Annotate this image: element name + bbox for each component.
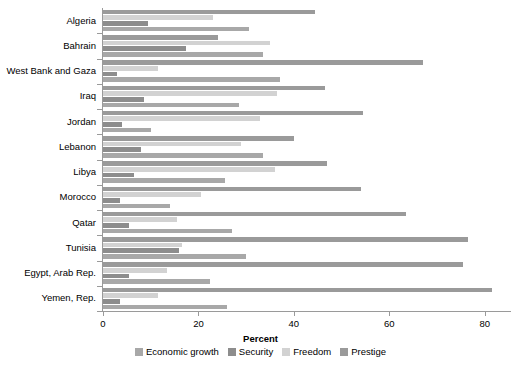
x-axis-tick-label: 80 xyxy=(465,318,505,329)
y-axis-category-label: Morocco xyxy=(0,191,96,202)
bar-economic-growth-qatar xyxy=(103,229,232,234)
legend-swatch-icon xyxy=(340,348,348,356)
bar-freedom-iraq xyxy=(103,91,277,96)
y-axis-tick xyxy=(97,185,102,186)
y-axis-tick xyxy=(97,261,102,262)
y-axis-category-label: Qatar xyxy=(0,217,96,228)
bar-economic-growth-bahrain xyxy=(103,52,263,57)
bar-prestige-libya xyxy=(103,161,327,166)
bar-prestige-tunisia xyxy=(103,237,468,242)
bar-economic-growth-yemen-rep- xyxy=(103,305,227,310)
y-axis-tick xyxy=(97,33,102,34)
y-axis-category-label: Yemen, Rep. xyxy=(0,292,96,303)
legend-item-economic-growth[interactable]: Economic growth xyxy=(135,346,219,357)
bar-security-egypt-arab-rep- xyxy=(103,274,129,279)
bar-freedom-yemen-rep- xyxy=(103,293,158,298)
x-axis-tick xyxy=(198,311,199,316)
legend-swatch-icon xyxy=(282,348,290,356)
bar-freedom-libya xyxy=(103,167,275,172)
y-axis-category-label: Bahrain xyxy=(0,40,96,51)
x-axis-tick xyxy=(389,311,390,316)
bar-security-bahrain xyxy=(103,46,186,51)
bar-economic-growth-tunisia xyxy=(103,254,246,259)
bar-chart: AlgeriaBahrainWest Bank and GazaIraqJord… xyxy=(0,0,521,370)
y-axis-category-label: Libya xyxy=(0,166,96,177)
y-axis-tick xyxy=(97,134,102,135)
bar-security-libya xyxy=(103,173,134,178)
bar-freedom-qatar xyxy=(103,217,177,222)
y-axis-category-label: Tunisia xyxy=(0,242,96,253)
y-axis-tick xyxy=(97,84,102,85)
bar-prestige-qatar xyxy=(103,212,406,217)
plot-area xyxy=(103,8,510,311)
y-axis-category-label: Jordan xyxy=(0,116,96,127)
bar-security-west-bank-and-gaza xyxy=(103,72,117,77)
bar-freedom-egypt-arab-rep- xyxy=(103,268,167,273)
y-axis-tick xyxy=(97,235,102,236)
bar-prestige-yemen-rep- xyxy=(103,288,492,293)
x-axis-tick xyxy=(103,311,104,316)
y-axis-tick xyxy=(97,311,102,312)
bar-freedom-tunisia xyxy=(103,243,182,248)
bar-security-qatar xyxy=(103,223,129,228)
bar-prestige-algeria xyxy=(103,10,315,15)
bar-economic-growth-lebanon xyxy=(103,153,263,158)
x-axis-line xyxy=(102,311,511,312)
x-axis-tick-label: 0 xyxy=(83,318,123,329)
bar-freedom-west-bank-and-gaza xyxy=(103,66,158,71)
bar-security-tunisia xyxy=(103,248,179,253)
legend-label: Economic growth xyxy=(146,346,219,357)
bar-freedom-morocco xyxy=(103,192,201,197)
x-axis-tick-label: 20 xyxy=(178,318,218,329)
bar-prestige-egypt-arab-rep- xyxy=(103,262,463,267)
x-axis-tick xyxy=(485,311,486,316)
legend-label: Freedom xyxy=(293,346,331,357)
y-axis-tick xyxy=(97,59,102,60)
bar-security-iraq xyxy=(103,97,144,102)
y-axis-tick xyxy=(97,109,102,110)
x-axis-tick-label: 60 xyxy=(369,318,409,329)
y-axis-category-label: Iraq xyxy=(0,90,96,101)
legend-item-prestige[interactable]: Prestige xyxy=(340,346,386,357)
bar-economic-growth-jordan xyxy=(103,128,151,133)
bar-economic-growth-libya xyxy=(103,178,225,183)
y-axis-category-label: West Bank and Gaza xyxy=(0,65,96,76)
bar-economic-growth-egypt-arab-rep- xyxy=(103,279,210,284)
bar-prestige-lebanon xyxy=(103,136,294,141)
x-axis-tick-label: 40 xyxy=(274,318,314,329)
x-axis-title: Percent xyxy=(0,333,521,344)
y-axis-category-label: Algeria xyxy=(0,15,96,26)
chart-legend: Economic growthSecurityFreedomPrestige xyxy=(0,346,521,357)
legend-item-security[interactable]: Security xyxy=(228,346,273,357)
legend-swatch-icon xyxy=(228,348,236,356)
bar-security-lebanon xyxy=(103,147,141,152)
bar-freedom-algeria xyxy=(103,15,213,20)
bar-economic-growth-morocco xyxy=(103,204,170,209)
bar-security-jordan xyxy=(103,122,122,127)
legend-label: Security xyxy=(239,346,273,357)
bar-security-yemen-rep- xyxy=(103,299,120,304)
bar-prestige-morocco xyxy=(103,187,361,192)
x-axis-tick xyxy=(294,311,295,316)
bar-freedom-jordan xyxy=(103,116,260,121)
bar-prestige-iraq xyxy=(103,86,325,91)
bar-security-morocco xyxy=(103,198,120,203)
y-axis-category-label: Egypt, Arab Rep. xyxy=(0,267,96,278)
bar-freedom-lebanon xyxy=(103,142,241,147)
y-axis-tick xyxy=(97,210,102,211)
y-axis-category-label: Lebanon xyxy=(0,141,96,152)
y-axis-tick xyxy=(97,160,102,161)
bar-prestige-jordan xyxy=(103,111,363,116)
legend-swatch-icon xyxy=(135,348,143,356)
bar-prestige-west-bank-and-gaza xyxy=(103,60,423,65)
bar-prestige-bahrain xyxy=(103,35,218,40)
bar-security-algeria xyxy=(103,21,148,26)
bar-freedom-bahrain xyxy=(103,41,270,46)
bar-economic-growth-iraq xyxy=(103,103,239,108)
legend-label: Prestige xyxy=(351,346,386,357)
bar-economic-growth-west-bank-and-gaza xyxy=(103,77,280,82)
legend-item-freedom[interactable]: Freedom xyxy=(282,346,331,357)
y-axis-tick xyxy=(97,286,102,287)
bar-economic-growth-algeria xyxy=(103,27,249,32)
